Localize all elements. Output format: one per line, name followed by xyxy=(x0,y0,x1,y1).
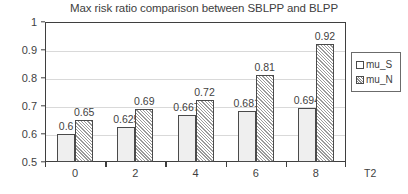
bar-mu_N-2[interactable] xyxy=(135,109,153,162)
legend-label-mu-s: mu_S xyxy=(366,59,392,70)
y-axis-tick-label: 0.5 xyxy=(0,156,41,168)
y-axis-tick-label: 0.9 xyxy=(0,44,41,56)
x-axis-tick-label: 6 xyxy=(253,167,259,179)
bar-value-label: 0.92 xyxy=(315,30,335,42)
bar-mu_S-4[interactable] xyxy=(178,115,196,162)
y-axis: 10.90.80.70.60.5 xyxy=(0,22,41,162)
bar-mu_N-4[interactable] xyxy=(196,100,214,162)
legend-swatch-icon-mu-n xyxy=(356,76,364,84)
x-axis-tick-label: 4 xyxy=(192,167,198,179)
chart-title: Max risk ratio comparison between SBLPP … xyxy=(0,2,408,14)
y-axis-tick-label: 1 xyxy=(0,16,41,28)
legend-item-mu-s[interactable]: mu_S xyxy=(356,57,397,72)
bar-value-label: 0.65 xyxy=(74,106,94,118)
bar-mu_S-6[interactable] xyxy=(238,111,256,162)
bar-mu_N-8[interactable] xyxy=(316,44,334,162)
y-axis-tick-label: 0.6 xyxy=(0,128,41,140)
x-axis-tick-label: 2 xyxy=(132,167,138,179)
legend-label-mu-n: mu_N xyxy=(366,74,393,85)
bar-series-layer: 0.60.650.6250.690.6670.720.6810.810.6940… xyxy=(45,22,346,162)
bar-value-label: 0.72 xyxy=(194,86,214,98)
chart-container: Max risk ratio comparison between SBLPP … xyxy=(0,0,408,194)
bar-mu_N-6[interactable] xyxy=(256,75,274,162)
y-axis-tick-label: 0.7 xyxy=(0,100,41,112)
bar-mu_S-0[interactable] xyxy=(57,134,75,162)
legend-swatch-icon-mu-s xyxy=(356,61,364,69)
x-axis-labels: 02468 xyxy=(45,167,346,187)
chart-legend: mu_S mu_N xyxy=(351,52,401,92)
legend-item-mu-n[interactable]: mu_N xyxy=(356,72,397,87)
bar-value-label: 0.81 xyxy=(254,61,274,73)
bar-mu_S-2[interactable] xyxy=(117,127,135,162)
x-axis-title: T2 xyxy=(364,167,376,179)
bar-mu_S-8[interactable] xyxy=(298,108,316,162)
bar-mu_N-0[interactable] xyxy=(75,120,93,162)
x-axis-tick-label: 0 xyxy=(72,167,78,179)
bar-value-label: 0.6 xyxy=(59,120,74,132)
bar-value-label: 0.69 xyxy=(134,95,154,107)
x-axis-tick-label: 8 xyxy=(313,167,319,179)
y-axis-tick-label: 0.8 xyxy=(0,72,41,84)
